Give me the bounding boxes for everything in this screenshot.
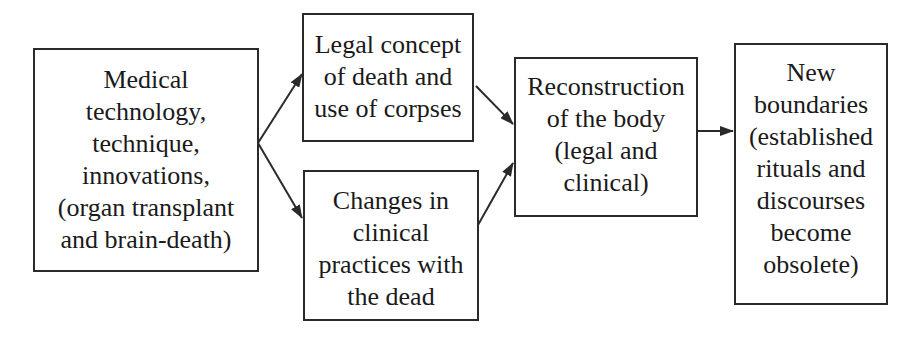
arrow-clinical-to-reconstruction <box>478 163 513 225</box>
node-new-boundaries-label: New boundaries (established rituals and … <box>749 57 873 281</box>
node-medical-technology: Medical technology, technique, innovatio… <box>33 48 259 272</box>
node-legal-concept-label: Legal concept of death and use of corpse… <box>314 29 461 125</box>
arrow-medical-to-legal <box>258 74 302 143</box>
node-legal-concept: Legal concept of death and use of corpse… <box>302 13 474 142</box>
node-new-boundaries: New boundaries (established rituals and … <box>734 43 888 305</box>
node-reconstruction-label: Reconstruction of the body (legal and cl… <box>527 71 684 199</box>
node-clinical-practices: Changes in clinical practices with the d… <box>303 170 479 321</box>
arrow-legal-to-reconstruction <box>476 86 513 124</box>
node-clinical-practices-label: Changes in clinical practices with the d… <box>318 185 463 313</box>
node-reconstruction: Reconstruction of the body (legal and cl… <box>514 57 698 217</box>
node-medical-technology-label: Medical technology, technique, innovatio… <box>58 64 234 256</box>
arrow-medical-to-clinical <box>258 143 302 218</box>
